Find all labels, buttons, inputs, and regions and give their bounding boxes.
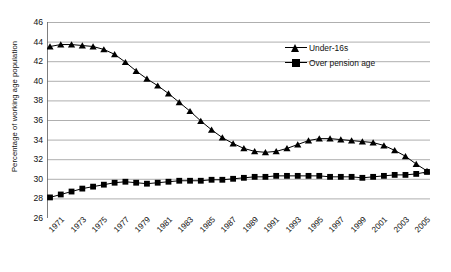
y-tick-label: 34: [33, 135, 43, 145]
x-tick-label: 2001: [370, 215, 389, 234]
data-point-marker: [424, 169, 430, 175]
data-point-marker: [230, 140, 237, 146]
data-point-marker: [230, 176, 236, 182]
x-tick-label: 1993: [284, 215, 303, 234]
data-point-marker: [349, 174, 355, 180]
data-point-marker: [306, 173, 312, 179]
data-point-marker: [252, 174, 258, 180]
x-tick-label: 1971: [47, 215, 66, 234]
legend-label: Over pension age: [309, 58, 375, 68]
data-point-marker: [198, 178, 204, 184]
y-tick-label: 40: [33, 76, 43, 86]
chart-legend: Under-16s Over pension age: [285, 40, 375, 70]
data-point-marker: [123, 179, 129, 185]
data-point-marker: [166, 179, 172, 185]
data-point-marker: [240, 145, 247, 151]
data-point-marker: [111, 51, 118, 57]
data-point-marker: [176, 178, 182, 184]
x-tick-label: 1981: [155, 215, 174, 234]
data-point-marker: [209, 177, 215, 183]
data-point-marker: [144, 181, 150, 187]
x-tick-label: 1973: [69, 215, 88, 234]
x-tick-label: 1997: [327, 215, 346, 234]
legend-item-over-pension-age: Over pension age: [285, 55, 375, 70]
legend-item-under-16s: Under-16s: [285, 40, 375, 55]
x-tick-label: 1975: [90, 215, 109, 234]
y-tick-label: 32: [33, 154, 43, 164]
data-point-marker: [359, 175, 365, 181]
x-tick-label: 1983: [176, 215, 195, 234]
data-point-marker: [273, 173, 279, 179]
data-point-marker: [133, 180, 139, 186]
x-axis-tick-labels: 1971197319751977197919811983198519871989…: [47, 224, 430, 270]
data-point-marker: [112, 180, 118, 186]
data-point-marker: [284, 173, 290, 179]
data-point-marker: [90, 184, 96, 190]
data-point-marker: [381, 173, 387, 179]
y-tick-label: 30: [33, 174, 43, 184]
x-tick-label: 1979: [133, 215, 152, 234]
data-point-marker: [263, 174, 269, 180]
x-tick-label: 1977: [112, 215, 131, 234]
data-point-marker: [402, 153, 409, 159]
y-tick-label: 46: [33, 17, 43, 27]
square-marker-icon: [285, 57, 307, 68]
y-tick-label: 36: [33, 115, 43, 125]
data-point-marker: [283, 145, 290, 151]
x-tick-label: 1999: [349, 215, 368, 234]
data-point-marker: [219, 177, 225, 183]
data-point-marker: [338, 174, 344, 180]
y-tick-label: 26: [33, 213, 43, 223]
chart-figure: Percentage of working age population 262…: [0, 0, 451, 272]
legend-label: Under-16s: [309, 43, 348, 53]
data-point-marker: [154, 82, 161, 88]
data-point-marker: [370, 174, 376, 180]
y-tick-label: 44: [33, 37, 43, 47]
y-tick-label: 42: [33, 56, 43, 66]
x-tick-label: 1989: [241, 215, 260, 234]
data-point-marker: [79, 186, 85, 192]
data-point-marker: [316, 173, 322, 179]
data-point-marker: [392, 172, 398, 178]
y-tick-label: 38: [33, 95, 43, 105]
data-point-marker: [58, 192, 64, 198]
x-tick-label: 1991: [262, 215, 281, 234]
x-tick-label: 1995: [306, 215, 325, 234]
y-axis-tick-labels: 2628303234363840424446: [0, 22, 43, 218]
data-point-marker: [155, 180, 161, 186]
x-tick-label: 1985: [198, 215, 217, 234]
data-point-marker: [241, 175, 247, 181]
data-point-marker: [69, 189, 75, 195]
x-tick-label: 2003: [392, 215, 411, 234]
data-point-marker: [327, 174, 333, 180]
triangle-marker-icon: [285, 42, 307, 53]
data-point-marker: [413, 171, 419, 177]
data-point-marker: [101, 182, 107, 188]
data-point-marker: [391, 147, 398, 153]
data-point-marker: [294, 141, 301, 147]
data-point-marker: [47, 195, 53, 201]
data-point-marker: [187, 178, 193, 184]
data-point-marker: [403, 172, 409, 178]
x-tick-label: 1987: [219, 215, 238, 234]
x-tick-label: 2005: [413, 215, 432, 234]
data-point-marker: [295, 173, 301, 179]
y-tick-label: 28: [33, 193, 43, 203]
